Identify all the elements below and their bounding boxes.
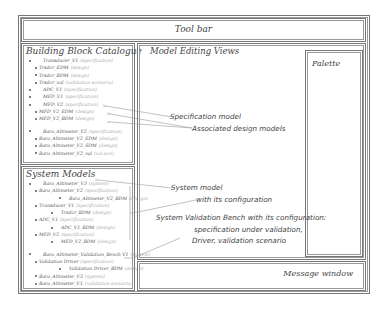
tree-item[interactable]: MFD_V1(specification) [25,93,153,100]
tree-item-kind: (validation scenario) [85,281,133,286]
palette-title: Palette [312,59,340,68]
tree-item[interactable]: Trsdcr_EDM(design) [25,64,153,71]
tree-item[interactable]: ADC_V1_BDM(design) [25,224,153,231]
tree-item[interactable]: ADC_V1(specification) [25,86,153,93]
bullet-icon [35,67,37,69]
tree-item[interactable]: MFD_V2_BDM(design) [25,238,153,245]
bullet-icon [35,261,37,263]
tree-item-name: Trsdcr_val [39,80,63,85]
bullet-icon [59,197,61,199]
tree-item[interactable]: Transducer_V1(specification) [25,57,153,64]
toolbar-label: Tool bar [22,24,365,34]
bullet-icon [35,82,37,84]
bullet-icon [35,283,37,285]
tree-item-name: ADC_V1 [39,217,58,222]
tree-item-kind: (design) [96,225,115,230]
bullet-icon [35,145,37,147]
tree-item-kind: (specification) [64,87,97,92]
annotation-specification-model: Specification model [170,112,241,121]
tree-item-name: Baro_Altimeter_V2 [43,129,87,134]
bullet-icon [35,152,37,154]
tree-item-kind: (specification) [85,188,118,193]
annotation-design-models: Associated design models [192,124,286,133]
bullet-icon [29,104,31,106]
tree-item[interactable]: MFD_V2(specification) [25,101,153,108]
tree-item[interactable]: MFD_V2_BDM(design) [25,115,153,122]
tree-item[interactable]: Baro_Altimeter_V2_SDM(design) [25,142,153,149]
palette-panel[interactable]: Palette [305,50,363,257]
tree-item-name: MFD_V2_BDM [61,239,95,244]
tree-item-name: Baro_Altimeter_V2_val [39,151,92,156]
tree-item-name: Trsdcr_EDM [39,65,68,70]
tree-item[interactable]: Baro_Altimeter_V2_val(val.scn) [25,150,153,157]
tree-item-kind: (specification) [61,232,94,237]
annotation-system-model-config: with its configuration [196,195,272,204]
tree-item-kind: (specification) [81,259,114,264]
system-models-tree: Baro_Altimeter_V3(system)Baro_Altimeter_… [25,180,153,287]
system-models-panel: System Models Baro_Altimeter_V3(system)B… [21,166,135,291]
tree-item-name: Transducer_V1 [39,203,74,208]
catalogue-title: Building Block Catalogue [26,46,142,56]
tree-item[interactable]: Validation Driver(specification) [25,258,153,265]
tree-item[interactable]: Baro_Altimeter_V2_EDM(design) [25,135,153,142]
tree-item[interactable]: Baro_Altimeter_V2_BDM(design) [25,195,153,202]
tree-item-kind: (design) [70,73,89,78]
tree-item[interactable]: Validation Driver_BDM(design) [25,265,153,272]
bullet-icon [35,234,37,236]
tree-item-name: Validation Driver_BDM [69,266,123,271]
bullet-icon [35,138,37,140]
tree-item[interactable]: Baro_Altimeter_V2(specification) [25,187,153,194]
tree-item-name: Baro_Altimeter_V2_SDM [39,143,97,148]
system-models-title: System Models [26,169,95,179]
tree-item-kind: (specification) [65,94,98,99]
tree-item-name: Baro_Altimeter_V3 [39,274,83,279]
tree-item-name: MFD_V2 [39,232,59,237]
tree-item-name: Baro_Altimeter_V3 [43,181,87,186]
tree-item-name: Baro_Altimeter_V2_BDM [69,196,127,201]
tree-item-kind: (system) [85,274,105,279]
tree-item-name: MFD_V2_EDM [39,109,73,114]
tree-item-kind: (system) [89,181,109,186]
tree-item[interactable]: Baro_Altimeter_V2(specification) [25,128,153,135]
annotation-validation-bench-spec: specification under validation, [194,225,303,234]
tree-item[interactable]: MFD_V2_EDM(design) [25,108,153,115]
bullet-icon [51,227,53,229]
tree-item-kind: (specification) [65,102,98,107]
tree-item-kind: (design) [97,239,116,244]
tree-item-name: MFD_V2_BDM [39,116,73,121]
tree-item[interactable]: MFD_V2(specification) [25,231,153,238]
tree-item-kind: (val.scn) [94,151,114,156]
tree-item[interactable]: Trsdcr_BDM(design) [25,72,153,79]
tree-item-name: Baro_Altimeter_V2 [39,188,83,193]
tree-item-kind: (design) [99,136,118,141]
tree-item[interactable]: Baro_Altimeter_V1(validation scenario) [25,280,153,287]
annotation-validation-bench-driver: Driver, validation scenario [192,236,286,245]
tree-item-kind: (design) [75,116,94,121]
bullet-icon [35,205,37,207]
tree-item[interactable]: Trsdcr_val(validation scenario) [25,79,153,86]
bullet-icon [35,74,37,76]
tree-item-name: Validation Driver [39,259,79,264]
tree-item[interactable]: Transducer_V1(specification) [25,202,153,209]
message-window-panel: Message window [137,261,366,291]
bullet-icon [35,275,37,277]
tree-item-name: Trsdcr_BDM [39,73,68,78]
bullet-icon [51,212,53,214]
tree-item[interactable]: Baro_Altimeter_V3(system) [25,180,153,187]
catalogue-tree: Transducer_V1(specification)Trsdcr_EDM(d… [25,57,153,157]
tree-item-name: MFD_V2 [43,102,63,107]
tree-item-kind: (validation scenario) [65,80,113,85]
bullet-icon [29,60,31,62]
toolbar[interactable]: Tool bar [21,18,366,42]
bullet-icon [29,89,31,91]
tree-item[interactable]: ADC_V1(specification) [25,216,153,223]
message-window-title: Message window [283,269,353,278]
tree-item[interactable]: Trsdcr_BDM(design) [25,209,153,216]
tree-item-name: MFD_V1 [43,94,63,99]
tree-item-kind: (specification) [60,217,93,222]
tree-item-name: Transducer_V1 [43,58,78,63]
tree-item[interactable]: Baro_Altimeter_Validation_Bench V1(syste… [25,251,153,258]
tree-item[interactable]: Baro_Altimeter_V3(system) [25,273,153,280]
bullet-icon [35,111,37,113]
tree-item-name: Baro_Altimeter_V1 [39,281,83,286]
